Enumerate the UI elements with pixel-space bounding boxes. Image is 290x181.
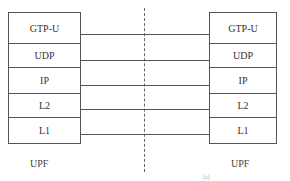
- right-node-label: UPF: [231, 158, 249, 169]
- peer-link-l2: [81, 109, 209, 110]
- layer-udp: UDP: [210, 44, 276, 68]
- left-node-label: UPF: [30, 158, 48, 169]
- peer-link-ip: [81, 85, 209, 86]
- peer-link-gtp-u: [81, 34, 209, 35]
- layer-gtp-u: GTP-U: [210, 13, 276, 44]
- layer-ip: IP: [9, 68, 80, 94]
- interface-divider: [144, 8, 145, 172]
- right-upf-protocol-stack: GTP-U UDP IP L2 L1: [209, 12, 277, 144]
- peer-link-l1: [81, 134, 209, 135]
- peer-link-udp: [81, 60, 209, 61]
- layer-l1: L1: [210, 118, 276, 143]
- layer-ip: IP: [210, 68, 276, 94]
- figure-note: (a): [203, 174, 210, 180]
- layer-gtp-u: GTP-U: [9, 13, 80, 44]
- layer-l2: L2: [210, 94, 276, 118]
- layer-l1: L1: [9, 118, 80, 143]
- left-upf-protocol-stack: GTP-U UDP IP L2 L1: [8, 12, 81, 144]
- layer-l2: L2: [9, 94, 80, 118]
- layer-udp: UDP: [9, 44, 80, 68]
